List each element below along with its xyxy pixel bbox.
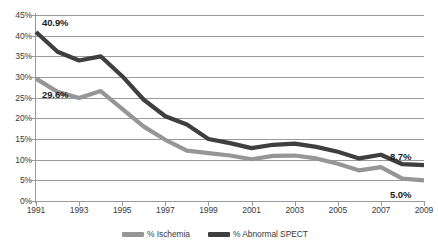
series-line-ischemia (36, 79, 424, 181)
x-axis-label-1995: 1995 (102, 205, 142, 215)
y-axis-label-40%: 40% (2, 31, 32, 41)
last-ischemia-label: 5.0% (390, 189, 411, 200)
x-axis-label-2007: 2007 (361, 205, 401, 215)
x-axis-label-2003: 2003 (275, 205, 315, 215)
legend-item-ischemia: % Ischemia (122, 229, 190, 239)
y-axis-label-25%: 25% (2, 93, 32, 103)
x-axis-label-1997: 1997 (145, 205, 185, 215)
y-axis-label-5%: 5% (2, 175, 32, 185)
plot-area (36, 15, 424, 201)
y-axis-label-20%: 20% (2, 113, 32, 123)
legend-swatch-icon (122, 232, 144, 237)
legend-label: % Ischemia (147, 229, 190, 239)
y-axis-label-35%: 35% (2, 51, 32, 61)
x-axis-label-1993: 1993 (59, 205, 99, 215)
y-axis-label-15%: 15% (2, 134, 32, 144)
series-lines (36, 15, 424, 201)
y-axis-label-45%: 45% (2, 10, 32, 20)
last-abnormal-spect-label: 8.7% (390, 151, 411, 162)
chart-legend: % Ischemia% Abnormal SPECT (0, 229, 430, 239)
legend-item-abnormal-spect: % Abnormal SPECT (208, 229, 308, 239)
y-axis-label-30%: 30% (2, 72, 32, 82)
legend-label: % Abnormal SPECT (233, 229, 308, 239)
x-axis-label-1991: 1991 (16, 205, 56, 215)
x-axis-label-2009: 2009 (404, 205, 438, 215)
x-axis-label-2005: 2005 (318, 205, 358, 215)
first-ischemia-label: 29.6% (42, 89, 68, 100)
legend-swatch-icon (208, 232, 230, 237)
y-axis-label-10%: 10% (2, 155, 32, 165)
x-axis-line (30, 201, 425, 202)
x-axis-label-2001: 2001 (232, 205, 272, 215)
series-line-abnormal-spect (36, 32, 424, 165)
first-abnormal-spect-label: 40.9% (42, 17, 68, 28)
x-axis-label-1999: 1999 (188, 205, 228, 215)
